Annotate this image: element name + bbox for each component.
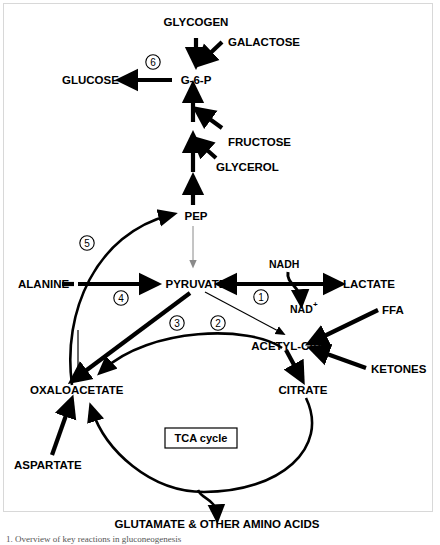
- figure-root: 1 2 3 4 5 6 TCA cycle GLYCOGEN GALACTOSE…: [0, 0, 440, 545]
- node-glycogen: GLYCOGEN: [164, 16, 229, 28]
- node-lactate: LACTATE: [343, 278, 395, 290]
- step-badge-6-label: 6: [150, 57, 156, 68]
- gluconeogenesis-pathway-diagram: 1 2 3 4 5 6 TCA cycle GLYCOGEN GALACTOSE…: [0, 0, 440, 545]
- node-ffa: FFA: [382, 304, 404, 316]
- step-badge-3-label: 3: [174, 318, 180, 329]
- node-oxaloacetate: OXALOACETATE: [30, 384, 124, 396]
- cofactor-nad-plus-superscript: +: [313, 300, 318, 309]
- tca-cycle-box: TCA cycle: [165, 428, 237, 448]
- node-alanine: ALANINE: [18, 278, 69, 290]
- node-acetyl-coa: ACETYL-CoA: [251, 340, 324, 352]
- node-glucose: GLUCOSE: [62, 74, 119, 86]
- step-badge-2-label: 2: [215, 318, 221, 329]
- cofactor-nad-plus-base: NAD: [290, 303, 313, 315]
- step-badge-5-label: 5: [84, 238, 90, 249]
- step-badge-4-label: 4: [118, 293, 124, 304]
- node-glutamate-amino-acids: GLUTAMATE & OTHER AMINO ACIDS: [114, 518, 319, 530]
- node-ketones: KETONES: [371, 363, 427, 375]
- node-galactose: GALACTOSE: [228, 36, 300, 48]
- tca-cycle-label: TCA cycle: [175, 432, 228, 444]
- node-pep: PEP: [184, 210, 207, 222]
- cofactor-nadh: NADH: [269, 258, 299, 270]
- node-pyruvate: PYRUVATE: [166, 278, 227, 290]
- node-glycerol: GLYCEROL: [216, 161, 279, 173]
- node-citrate: CITRATE: [279, 384, 328, 396]
- node-g6p: G-6-P: [181, 74, 212, 86]
- node-aspartate: ASPARTATE: [14, 459, 82, 471]
- node-fructose: FRUCTOSE: [228, 136, 291, 148]
- figure-caption: 1. Overview of key reactions in gluconeo…: [6, 534, 182, 544]
- step-badge-1-label: 1: [258, 292, 264, 303]
